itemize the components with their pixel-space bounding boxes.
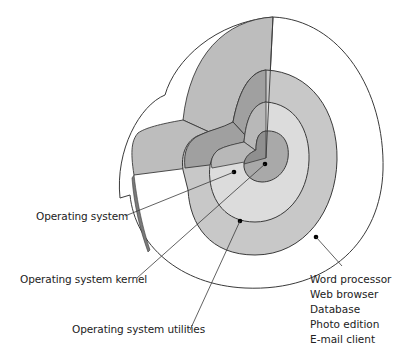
app-item: E-mail client — [310, 332, 391, 347]
label-kernel: Operating system kernel — [20, 272, 147, 286]
app-item: Word processor — [310, 272, 391, 287]
app-item: Web browser — [310, 287, 391, 302]
app-item: Photo edition — [310, 317, 391, 332]
app-item: Database — [310, 302, 391, 317]
label-operating-system: Operating system — [36, 209, 128, 223]
label-utilities: Operating system utilities — [72, 322, 205, 336]
applications-list: Word processor Web browser Database Phot… — [310, 272, 391, 347]
